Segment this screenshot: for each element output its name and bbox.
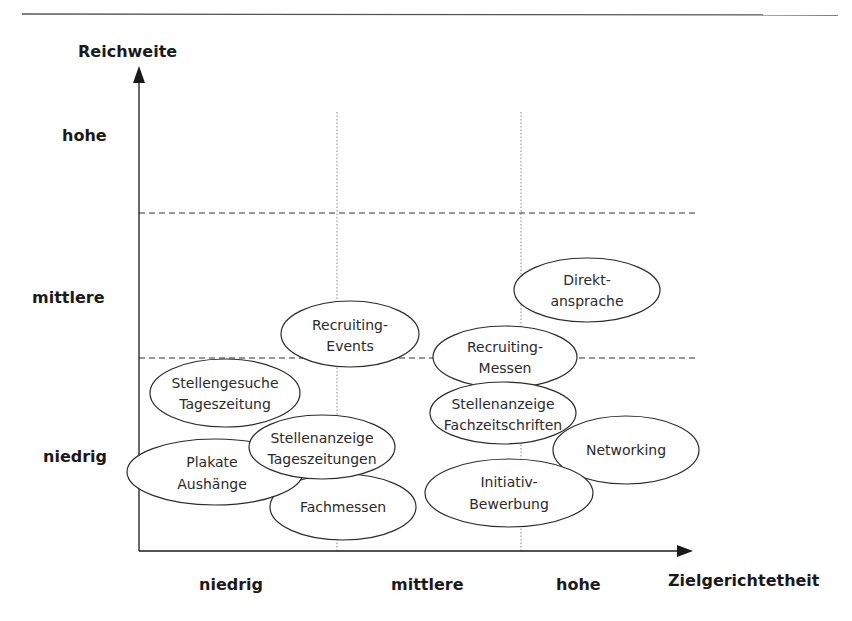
bubble-label: Plakate bbox=[186, 454, 237, 470]
bubble-direktansprache: Direkt- ansprache bbox=[514, 258, 660, 322]
bubble-label: Fachmessen bbox=[300, 499, 386, 515]
y-label-high: hohe bbox=[62, 126, 107, 145]
bubble-label: ansprache bbox=[550, 293, 623, 309]
bubble-label: Initiativ- bbox=[480, 474, 537, 490]
x-label-mid: mittlere bbox=[391, 575, 464, 594]
bubble-label: Direkt- bbox=[563, 272, 610, 288]
bubble-label: Events bbox=[326, 338, 373, 354]
bubble-label: Stellenanzeige bbox=[451, 396, 554, 412]
bubble-label: Recruiting- bbox=[312, 317, 388, 333]
bubble-label: Tageszeitungen bbox=[266, 451, 376, 467]
bubble-label: Aushänge bbox=[177, 476, 247, 492]
bubble-label: Stellenanzeige bbox=[270, 430, 373, 446]
x-label-low: niedrig bbox=[199, 575, 263, 594]
y-label-low: niedrig bbox=[43, 447, 107, 466]
bubble-label: Fachzeitschriften bbox=[444, 417, 562, 433]
x-label-high: hohe bbox=[556, 575, 601, 594]
y-axis-title: Reichweite bbox=[78, 42, 177, 61]
recruiting-channels-diagram: Reichweite Zielgerichtetheit hohe mittle… bbox=[0, 0, 852, 621]
bubble-stellenanzeige-fachzeitschriften: Stellenanzeige Fachzeitschriften bbox=[430, 382, 576, 444]
bubble-label: Recruiting- bbox=[467, 339, 543, 355]
x-axis-title: Zielgerichtetheit bbox=[668, 571, 820, 590]
y-axis-arrow-icon bbox=[133, 66, 145, 83]
bubble-stellenanzeige-tageszeitungen: Stellenanzeige Tageszeitungen bbox=[249, 415, 395, 479]
bubble-recruiting-events: Recruiting- Events bbox=[281, 301, 419, 367]
bubble-label: Stellengesuche bbox=[171, 375, 278, 391]
bubble-label: Bewerbung bbox=[469, 496, 549, 512]
top-rule bbox=[22, 14, 838, 15]
x-axis-arrow-icon bbox=[677, 545, 693, 557]
bubble-recruiting-messen: Recruiting- Messen bbox=[433, 326, 577, 388]
bubble-initiativ-bewerbung: Initiativ- Bewerbung bbox=[425, 459, 593, 527]
bubble-label: Networking bbox=[586, 442, 666, 458]
y-label-mid: mittlere bbox=[32, 288, 105, 307]
bubble-label: Messen bbox=[479, 360, 532, 376]
bubble-label: Tageszeitung bbox=[178, 396, 271, 412]
bubble-stellengesuche-tageszeitung: Stellengesuche Tageszeitung bbox=[150, 359, 300, 427]
